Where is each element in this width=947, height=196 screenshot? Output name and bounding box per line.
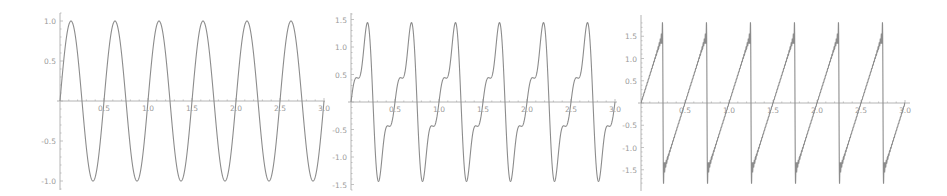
charts-canvas: 0.51.01.52.02.53.01.00.5-0.5-1.0 0.51.01… bbox=[0, 0, 947, 196]
chart-sawtooth-many-terms: 0.51.01.52.02.53.01.51.00.5-0.5-1.0-1.5 bbox=[622, 15, 911, 191]
y-tick-label: -1.0 bbox=[41, 177, 56, 186]
x-tick-label: 2.0 bbox=[811, 106, 823, 115]
x-tick-label: 1.5 bbox=[477, 105, 489, 114]
y-tick-label: 0.5 bbox=[625, 77, 637, 86]
y-tick-label: -1.5 bbox=[622, 166, 637, 175]
y-tick-label: 1.5 bbox=[625, 32, 637, 41]
x-tick-label: 2.5 bbox=[565, 105, 577, 114]
x-tick-label: 0.5 bbox=[679, 106, 691, 115]
chart-sawtooth-3-terms: 0.51.01.52.02.53.01.51.00.5-0.5-1.0-1.5 bbox=[332, 13, 621, 190]
x-tick-label: 1.5 bbox=[767, 106, 779, 115]
y-tick-label: 0.5 bbox=[44, 57, 56, 66]
y-tick-label: -1.0 bbox=[622, 144, 637, 153]
x-tick-label: 2.5 bbox=[855, 106, 867, 115]
y-tick-label: -1.0 bbox=[332, 153, 347, 162]
y-tick-label: 1.0 bbox=[335, 43, 347, 52]
y-tick-label: 1.5 bbox=[335, 16, 347, 25]
x-tick-label: 3.0 bbox=[899, 106, 911, 115]
y-tick-label: 1.0 bbox=[44, 17, 56, 26]
y-tick-label: -1.5 bbox=[332, 181, 347, 190]
y-tick-label: -0.5 bbox=[332, 126, 347, 135]
y-tick-label: 1.0 bbox=[625, 55, 637, 64]
y-tick-label: 0.5 bbox=[335, 71, 347, 80]
x-tick-label: 1.0 bbox=[433, 105, 445, 114]
x-tick-label: 2.0 bbox=[521, 105, 533, 114]
y-tick-label: -0.5 bbox=[41, 137, 56, 146]
y-tick-label: -0.5 bbox=[622, 121, 637, 130]
chart-sine: 0.51.01.52.02.53.01.00.5-0.5-1.0 bbox=[41, 13, 330, 190]
x-tick-label: 1.0 bbox=[723, 106, 735, 115]
x-tick-label: 3.0 bbox=[609, 105, 621, 114]
x-tick-label: 0.5 bbox=[389, 105, 401, 114]
